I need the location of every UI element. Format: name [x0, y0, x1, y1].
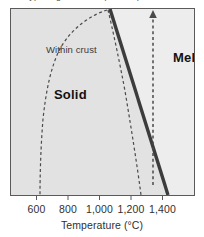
melt-region-fill [110, 9, 194, 195]
x-tick-label-1200: 1,200 [118, 203, 145, 215]
plot-area: Within crust Solid Melt [10, 8, 195, 196]
cropped-caption-remnant: Typical geotherms (dashed) [0, 0, 204, 7]
cropped-caption-text: Typical geotherms (dashed) [24, 0, 140, 1]
x-tick-label-800: 800 [59, 203, 77, 215]
plot-canvas [11, 9, 194, 195]
x-tick-label-600: 600 [28, 203, 46, 215]
x-axis-ticks [0, 196, 204, 202]
x-tick-label-1400: 1,400 [149, 203, 176, 215]
melt-region-label: Melt [173, 51, 195, 64]
within-crust-geotherm-curve [40, 10, 107, 195]
x-axis-title: Temperature (°C) [0, 219, 204, 231]
x-tick-label-1000: 1,000 [86, 203, 113, 215]
melting-curve-figure: Typical geotherms (dashed) Within crust … [0, 0, 204, 237]
within-crust-label: Within crust [46, 45, 97, 55]
x-axis-tick-labels: 600 800 1,000 1,200 1,400 [0, 203, 204, 217]
solid-region-label: Solid [54, 88, 87, 101]
